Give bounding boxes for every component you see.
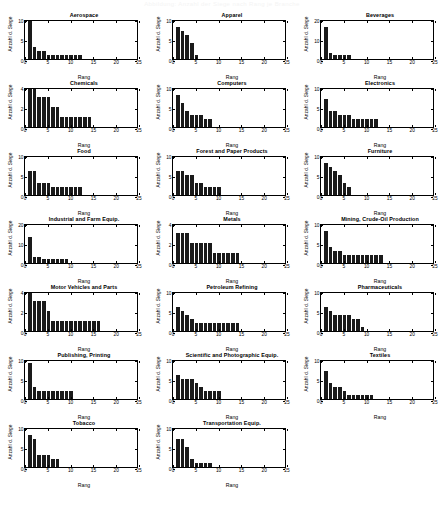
x-tick-mark [367,57,368,59]
y-tick-mark [431,381,433,382]
plot-area [25,361,137,399]
x-tick-mark [287,57,288,59]
x-tick-mark [241,157,242,159]
plot-axes: 05100510152025 [24,428,138,468]
x-tick-mark [435,361,436,363]
x-tick-label: 25 [284,196,289,201]
y-axis-label: Anzahl d. Siege [156,82,164,122]
y-tick-mark [135,89,137,90]
bar [378,255,383,263]
y-tick-label: 2 [169,243,172,248]
x-tick-mark [287,193,288,195]
y-tick-mark [135,381,137,382]
x-tick-label: 0 [24,400,27,405]
y-tick-mark [321,245,323,246]
x-tick-label: 15 [239,264,244,269]
x-tick-label: 10 [216,264,221,269]
x-tick-label: 25 [136,400,141,405]
y-tick-mark [25,41,27,42]
x-tick-mark [116,57,117,59]
y-tick-mark [135,109,137,110]
x-tick-mark [367,225,368,227]
x-tick-label: 10 [216,332,221,337]
x-tick-label: 20 [262,332,267,337]
x-tick-label: 5 [194,468,197,473]
y-tick-label: 5 [21,39,24,44]
plot-area [173,157,285,195]
x-tick-mark [48,261,49,263]
y-tick-label: 10 [166,155,171,160]
bar [360,327,365,331]
plot-axes: 05100510152025 [24,360,138,400]
y-tick-label: 10 [18,427,23,432]
bar [96,321,101,331]
x-tick-mark [139,125,140,127]
y-tick-mark [173,449,175,450]
x-tick-mark [241,57,242,59]
x-tick-mark [25,21,26,23]
y-tick-mark [173,177,175,178]
x-tick-mark [389,125,390,127]
y-tick-mark [135,429,137,430]
y-tick-label: 20 [18,223,23,228]
x-tick-mark [219,225,220,227]
y-tick-label: 2 [21,311,24,316]
x-tick-mark [196,293,197,295]
x-tick-mark [287,397,288,399]
x-tick-mark [173,397,174,399]
x-tick-mark [71,429,72,431]
x-tick-mark [321,193,322,195]
subplot: Mining, Crude-Oil ProductionAnzahl d. Si… [296,216,444,284]
x-tick-mark [435,193,436,195]
x-tick-mark [321,361,322,363]
x-tick-mark [287,125,288,127]
x-tick-mark [71,261,72,263]
chart-title: Forest and Paper Products [172,148,292,154]
x-tick-mark [367,329,368,331]
x-tick-mark [435,397,436,399]
y-tick-label: 5 [21,447,24,452]
plot-axes: 05100510152025 [320,360,434,400]
x-tick-label: 20 [114,468,119,473]
x-tick-mark [412,157,413,159]
chart-title: Chemicals [24,80,144,86]
x-tick-label: 0 [24,60,27,65]
x-tick-label: 25 [284,264,289,269]
x-tick-mark [219,125,220,127]
x-tick-label: 20 [262,196,267,201]
subplot: TextilesAnzahl d. SiegeRang0510051015202… [296,352,444,420]
x-tick-label: 20 [262,468,267,473]
y-tick-mark [431,157,433,158]
chart-title: Petroleum Refining [172,284,292,290]
plot-axes: 05100510152025 [172,360,286,400]
y-tick-label: 4 [21,291,24,296]
x-tick-mark [321,21,322,23]
x-tick-label: 20 [114,332,119,337]
x-tick-mark [344,329,345,331]
x-tick-mark [389,193,390,195]
x-tick-mark [264,465,265,467]
x-tick-label: 5 [46,196,49,201]
x-tick-label: 0 [320,196,323,201]
y-tick-mark [321,381,323,382]
x-tick-mark [116,397,117,399]
x-tick-label: 15 [91,332,96,337]
x-tick-mark [139,429,140,431]
x-tick-mark [241,125,242,127]
x-tick-mark [241,465,242,467]
x-tick-mark [71,361,72,363]
x-tick-label: 15 [239,468,244,473]
x-tick-label: 0 [172,264,175,269]
y-axis-label: Anzahl d. Siege [8,14,16,54]
x-tick-mark [71,465,72,467]
plot-area [173,225,285,263]
x-tick-mark [435,57,436,59]
subplot: Transportation Equip.Anzahl d. SiegeRang… [148,420,296,488]
x-tick-mark [435,329,436,331]
x-tick-mark [25,329,26,331]
x-tick-mark [344,57,345,59]
y-tick-mark [283,245,285,246]
x-tick-mark [219,57,220,59]
y-tick-mark [431,41,433,42]
chart-title: Motor Vehicles and Parts [24,284,144,290]
